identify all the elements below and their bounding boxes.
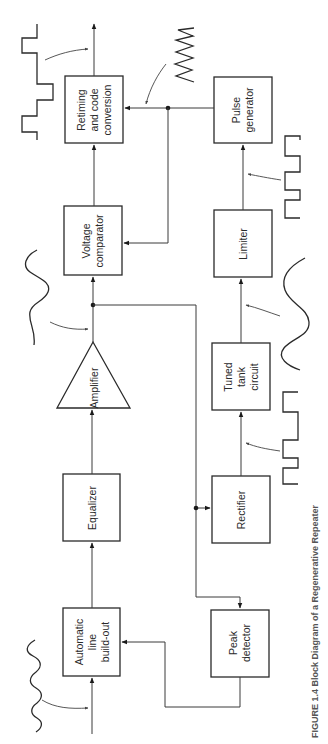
- amplified-wave-pointer: [50, 322, 88, 329]
- retiming-label-1: Retiming: [75, 89, 87, 131]
- peak-label-1: Peak: [227, 630, 239, 655]
- amplified-sine-wave: [26, 250, 49, 345]
- comparator-label-1: Voltage: [80, 223, 92, 258]
- timing-spike-wave: [175, 28, 194, 82]
- equalizer-label: Equalizer: [86, 486, 98, 530]
- block-voltage-comparator: Voltage comparator: [64, 206, 122, 275]
- repeater-block-diagram: Automatic line build-out Equalizer Ampli…: [0, 0, 328, 744]
- rectified-wave-pointer: [246, 443, 280, 451]
- tank-label-3: circuit: [248, 363, 260, 391]
- retiming-label-2: and code: [88, 88, 100, 131]
- tank-label-1: Tuned: [222, 362, 234, 392]
- rectified-pulse-train: [283, 392, 298, 484]
- block-rectifier: Rectifier: [212, 476, 270, 543]
- albo-label-3: build-out: [99, 622, 111, 662]
- amplifier-label: Amplifier: [88, 367, 100, 408]
- block-limiter: Limiter: [214, 210, 272, 277]
- clock-to-comparator: [124, 108, 168, 243]
- limited-square-wave: [285, 136, 300, 218]
- tank-wave-pointer: [246, 305, 280, 316]
- block-peak-detector: Peak detector: [211, 610, 269, 677]
- rectifier-label: Rectifier: [235, 490, 247, 529]
- junction-rectifier: [194, 506, 199, 511]
- spike-wave-pointer: [146, 64, 166, 104]
- albo-label-1: Automatic: [73, 619, 85, 666]
- tank-sine-wave: [281, 258, 309, 370]
- output-wave-pointer: [45, 49, 88, 60]
- limited-wave-pointer: [248, 174, 281, 180]
- block-tuned-tank-circuit: Tuned tank circuit: [212, 343, 270, 410]
- figure-caption: FIGURE 1.4 Block Diagram of a Regenerati…: [310, 504, 320, 738]
- block-equalizer: Equalizer: [63, 474, 120, 541]
- comparator-label-2: comparator: [93, 214, 105, 268]
- regenerated-output-pulses: [22, 24, 53, 140]
- limiter-label: Limiter: [237, 228, 249, 260]
- pulse-gen-label-1: Pulse: [230, 97, 242, 123]
- peak-label-2: detector: [240, 624, 252, 662]
- block-pulse-generator: Pulse generator: [214, 77, 272, 143]
- block-retiming-code-conversion: Retiming and code conversion: [65, 76, 123, 143]
- block-amplifier: Amplifier: [57, 342, 130, 408]
- albo-label-2: line: [86, 634, 98, 651]
- block-automatic-line-build-out: Automatic line build-out: [63, 608, 120, 676]
- pulse-gen-label-2: generator: [243, 87, 255, 132]
- retiming-label-3: conversion: [101, 84, 113, 135]
- tank-label-2: tank: [235, 366, 247, 387]
- distorted-input-wave: [27, 640, 41, 732]
- input-wave-pointer: [42, 700, 88, 708]
